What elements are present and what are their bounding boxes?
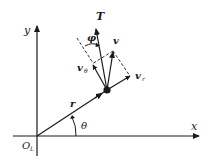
tangent-label: T	[96, 10, 105, 23]
velocity-r-vector	[107, 76, 130, 90]
velocity-r-label: v	[135, 70, 141, 81]
x-axis-label: x	[191, 120, 198, 133]
phi-label: φ	[87, 32, 96, 43]
particle-dot	[103, 86, 110, 93]
velocity-r-subscript: r	[142, 75, 146, 82]
velocity-theta-subscript: θ	[84, 67, 88, 74]
origin-subscript: L	[29, 145, 34, 152]
theta-arc	[72, 117, 76, 136]
origin-label: O	[22, 140, 30, 151]
velocity-theta-label: v	[77, 62, 83, 73]
polar-velocity-diagram: x y O L r θ T φ v v θ v r	[0, 0, 212, 167]
dashed-line-v-to-vr	[113, 51, 130, 76]
velocity-label: v	[113, 35, 119, 46]
theta-label: θ	[81, 120, 87, 131]
position-vector-arrow	[95, 93, 102, 98]
velocity-vector	[107, 52, 113, 90]
position-vector-label: r	[70, 98, 76, 109]
y-axis-label: y	[23, 24, 31, 37]
theta-arc-arrow	[70, 115, 75, 119]
